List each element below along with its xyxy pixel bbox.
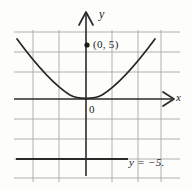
y-axis-label: y (99, 8, 104, 20)
x-axis-label: x (176, 92, 181, 103)
y-axis (79, 12, 93, 176)
point-coordinate-label: (0, 5) (93, 39, 119, 50)
point-marker-0-5 (84, 42, 89, 47)
origin-label: 0 (89, 104, 95, 115)
line-equation-label: y = −5. (129, 157, 165, 168)
math-figure-parabola: y x 0 (0, 5) y = −5. (0, 0, 193, 190)
